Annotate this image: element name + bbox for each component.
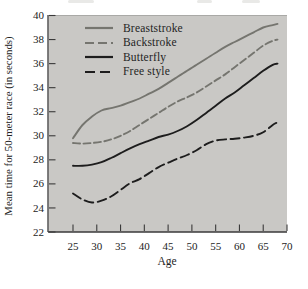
y-tick-label: 36	[33, 57, 45, 69]
y-tick-label: 22	[33, 226, 44, 238]
swim-times-figure: 2224262830323436384025303540455055606570…	[0, 0, 308, 289]
x-tick-label: 30	[91, 240, 103, 252]
legend-label-butterfly: Butterfly	[123, 52, 166, 64]
legend-item-butterfly: Butterfly	[84, 50, 183, 65]
x-axis-title: Age	[67, 255, 267, 267]
x-tick-label: 50	[186, 240, 198, 252]
legend-item-breaststroke: Breaststroke	[84, 21, 183, 36]
y-tick-label: 26	[33, 177, 45, 189]
legend-item-freestyle: Free style	[84, 65, 183, 80]
legend-label-breaststroke: Breaststroke	[123, 23, 183, 35]
x-tick-label: 45	[163, 240, 175, 252]
legend-label-freestyle: Free style	[123, 66, 170, 78]
x-tick-label: 40	[139, 240, 151, 252]
y-tick-label: 34	[33, 81, 45, 93]
legend-line-sample-icon	[84, 25, 114, 31]
legend-line-sample-icon	[84, 54, 114, 60]
x-tick-label: 60	[234, 240, 246, 252]
x-tick-label: 35	[115, 240, 127, 252]
legend-item-backstroke: Backstroke	[84, 36, 183, 51]
legend-label-backstroke: Backstroke	[123, 37, 177, 49]
x-tick-label: 65	[258, 240, 270, 252]
y-tick-label: 28	[33, 153, 45, 165]
y-tick-label: 32	[33, 105, 44, 117]
x-tick-label: 55	[210, 240, 222, 252]
x-tick-label: 70	[282, 240, 294, 252]
y-tick-label: 24	[33, 202, 45, 214]
x-tick-label: 25	[68, 240, 80, 252]
y-tick-label: 38	[33, 33, 45, 45]
y-tick-label: 40	[33, 9, 45, 21]
legend-line-sample-icon	[84, 40, 114, 46]
chart-legend: Breaststroke Backstroke Butterfly Free s…	[84, 21, 183, 79]
y-axis-title: Mean time for 50-meter race (in seconds)	[2, 21, 14, 231]
legend-line-sample-icon	[84, 69, 114, 75]
y-tick-label: 30	[33, 129, 45, 141]
